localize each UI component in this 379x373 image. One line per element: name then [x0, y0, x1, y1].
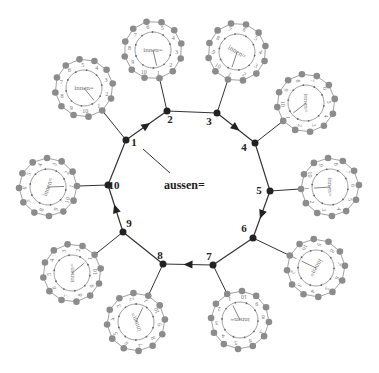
satellite-node	[171, 27, 178, 34]
satellite-node-number: 2	[309, 201, 315, 204]
satellite-node	[79, 243, 86, 250]
satellite-node	[284, 267, 291, 274]
satellite-node	[356, 182, 363, 189]
satellite-node	[99, 107, 106, 114]
satellite-node	[69, 168, 76, 175]
satellite-node-number: 2	[169, 62, 172, 68]
satellite-node-number: 3	[296, 282, 303, 288]
satellite-node	[52, 89, 59, 96]
satellite-node	[261, 333, 268, 340]
satellite-connector	[148, 264, 163, 296]
satellite-node-number: 5	[326, 101, 332, 104]
ring-node-label: 10	[109, 179, 121, 191]
satellite-node-number: 5	[25, 171, 32, 176]
satellite-node-number: 4	[172, 35, 175, 41]
satellite-node-number: 8	[215, 35, 221, 42]
ring-node-label: 9	[126, 217, 132, 229]
satellite-node	[106, 306, 113, 313]
satellite-node-number: 10	[64, 196, 72, 204]
satellite-node-number: 8	[333, 163, 339, 166]
satellite-node-number: 7	[227, 26, 233, 33]
satellite-node-number: 2	[297, 124, 303, 127]
ring-node-7: 7	[206, 250, 216, 269]
satellite-ring-1: 12345678910innen=	[52, 56, 126, 140]
ring-node-8: 8	[157, 249, 166, 268]
satellite-label: innen=	[68, 263, 76, 283]
satellite-node-number: 2	[105, 91, 108, 97]
satellite-node	[221, 341, 228, 348]
satellite-node-number: 4	[222, 333, 225, 339]
ring-edge	[213, 238, 253, 265]
satellite-node-number: 7	[63, 294, 69, 297]
satellite-node-number: 7	[259, 328, 262, 334]
satellite-node	[159, 331, 166, 338]
satellite-ring-3: 12345678910innen=	[205, 20, 268, 113]
satellite-node	[287, 252, 294, 259]
ring-node-label: 3	[206, 115, 212, 127]
satellite-node-number: 4	[323, 115, 329, 118]
satellite-node-number: 4	[37, 162, 44, 167]
satellite-node	[40, 274, 47, 281]
satellite-node-number: 7	[137, 343, 144, 348]
satellite-node	[307, 128, 314, 135]
satellite-node	[224, 291, 231, 298]
direction-arrow-icon	[113, 204, 121, 214]
satellite-node-number: 9	[316, 242, 323, 248]
ring-graph-diagram: 12345678910innen=12345678910innen=123456…	[0, 0, 379, 373]
satellite-node	[212, 68, 219, 75]
satellite-node	[162, 316, 169, 323]
satellite-node	[54, 74, 61, 81]
satellite-node-number: 2	[63, 170, 70, 175]
satellite-node-number: 2	[241, 71, 247, 78]
satellite-node	[300, 291, 307, 298]
satellite-node	[314, 73, 321, 80]
satellite-node	[255, 29, 262, 36]
satellite-node-number: 10	[82, 108, 88, 114]
satellite-node	[128, 66, 135, 73]
satellite-node-number: 5	[347, 198, 353, 201]
direction-arrow-icon	[230, 122, 240, 131]
ring-node-5: 5	[256, 184, 273, 196]
satellite-node	[73, 298, 80, 305]
satellite-node	[339, 277, 346, 284]
satellite-node	[205, 55, 212, 62]
satellite-node	[109, 80, 116, 87]
satellite-node	[213, 301, 220, 308]
ring-node-4: 4	[241, 140, 258, 154]
satellite-node	[130, 25, 137, 32]
satellite-node	[342, 262, 349, 269]
satellite-connector	[159, 78, 167, 111]
satellite-node-number: 9	[70, 105, 73, 111]
satellite-node	[339, 158, 346, 165]
satellite-node	[149, 342, 156, 349]
satellite-node	[321, 123, 328, 130]
satellite-node	[315, 294, 322, 301]
satellite-node	[60, 208, 67, 215]
satellite-node	[109, 335, 116, 342]
satellite-connector	[255, 121, 283, 143]
satellite-ring-6: 12345678910innen=	[253, 236, 348, 300]
satellite-node	[243, 21, 250, 28]
satellite-node	[343, 208, 350, 215]
satellite-node	[329, 213, 336, 220]
satellite-node-number: 5	[112, 331, 119, 336]
ring-node-label: 1	[131, 136, 137, 148]
satellite-node-number: 5	[161, 25, 164, 31]
center-label: aussen=	[164, 178, 205, 192]
satellite-node-number: 3	[175, 49, 178, 55]
satellite-node	[58, 103, 65, 110]
satellite-node	[135, 348, 142, 355]
satellite-node	[249, 343, 256, 350]
satellite-node-number: 3	[51, 162, 58, 167]
satellite-node-number: 9	[89, 284, 95, 287]
satellite-node	[51, 247, 58, 254]
satellite-connector	[213, 265, 227, 294]
satellite-label: innen=	[143, 46, 163, 54]
satellite-node-number: 9	[211, 49, 217, 56]
satellite-node	[121, 53, 128, 60]
satellite-node	[42, 259, 49, 266]
satellite-node-number: 7	[336, 261, 343, 267]
satellite-node-number: 8	[295, 79, 301, 82]
satellite-label: innen=	[326, 177, 334, 197]
satellite-node	[261, 58, 268, 65]
